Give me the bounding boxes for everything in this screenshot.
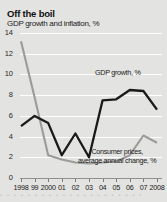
chart-figure: Off the boil GDP growth and inflation, %… [0, 0, 167, 202]
x-axis-label-2004: 04 [99, 183, 106, 192]
x-axis-tick-2007 [143, 179, 144, 182]
x-axis-label-2001: 01 [58, 183, 65, 192]
consumer-prices-line [21, 41, 157, 163]
x-axis-label-1998: 1998 [14, 183, 29, 192]
x-axis-label-2007: 07 [140, 183, 147, 192]
consumer-prices-annotation-line2: average annual change, % [78, 157, 156, 166]
x-axis-label-2006: 06 [126, 183, 133, 192]
x-axis-tick-1999 [35, 179, 36, 182]
x-axis-label-2003: 03 [85, 183, 92, 192]
x-axis-label-2000: 2000 [41, 183, 56, 192]
x-axis-tick-2005 [116, 179, 117, 182]
x-axis-tick-2008 [157, 179, 158, 182]
page-bleed-artifact: • • • • • • • • • • • • • • • • • • • • … [0, 192, 167, 202]
x-axis-tick-2003 [89, 179, 90, 182]
x-axis-tick-2004 [103, 179, 104, 182]
series-layer [0, 0, 167, 202]
x-axis-tick-2000 [48, 179, 49, 182]
gdp-growth-annotation: GDP growth, % [95, 69, 141, 77]
consumer-prices-annotation: Consumer prices, average annual change, … [78, 148, 156, 165]
x-axis-label-1999: 99 [31, 183, 38, 192]
x-axis-label-2008: 2008 [150, 183, 165, 192]
x-axis-tick-1998 [21, 179, 22, 182]
x-axis-tick-2001 [62, 179, 63, 182]
x-axis-label-2005: 05 [113, 183, 120, 192]
x-axis-tick-2006 [130, 179, 131, 182]
x-axis-tick-2002 [75, 179, 76, 182]
x-axis-label-2002: 02 [72, 183, 79, 192]
